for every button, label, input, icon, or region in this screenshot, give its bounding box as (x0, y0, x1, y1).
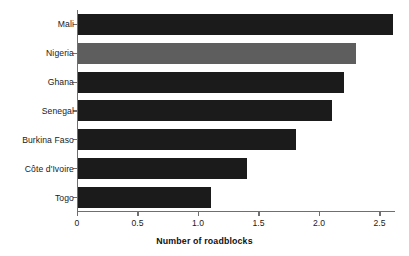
bar-chart: MaliNigeriaGhanaSenegalBurkina FasoCôte … (0, 0, 409, 256)
bar-row: Senegal (0, 97, 409, 126)
x-axis-tick (379, 212, 380, 216)
bar (78, 100, 332, 121)
bar (78, 129, 296, 150)
bar (78, 187, 211, 208)
x-axis-tick-label: 2.5 (359, 218, 399, 228)
bar-row: Burkina Faso (0, 125, 409, 154)
x-axis-tick-label: 1.0 (178, 218, 218, 228)
category-label: Ghana (0, 77, 74, 87)
bar-row: Ghana (0, 68, 409, 97)
bar-rows-container: MaliNigeriaGhanaSenegalBurkina FasoCôte … (0, 10, 409, 212)
x-axis-title: Number of roadblocks (0, 236, 409, 246)
x-axis-tick (137, 212, 138, 216)
x-axis-tick-label: 0 (57, 218, 97, 228)
x-axis-tick (319, 212, 320, 216)
x-axis-tick (198, 212, 199, 216)
x-axis-tick (258, 212, 259, 216)
category-label: Burkina Faso (0, 135, 74, 145)
x-axis-tick-label: 0.5 (117, 218, 157, 228)
bar-row: Togo (0, 183, 409, 212)
bar-row: Nigeria (0, 39, 409, 68)
category-label: Nigeria (0, 48, 74, 58)
bar (78, 14, 393, 35)
category-label: Togo (0, 193, 74, 203)
bar (78, 43, 356, 64)
bar (78, 72, 344, 93)
bar (78, 158, 247, 179)
x-axis-tick-label: 2.0 (299, 218, 339, 228)
category-label: Côte d'Ivoire (0, 164, 74, 174)
bar-row: Côte d'Ivoire (0, 154, 409, 183)
category-label: Mali (0, 19, 74, 29)
x-axis-tick (77, 212, 78, 216)
bar-row: Mali (0, 10, 409, 39)
category-label: Senegal (0, 106, 74, 116)
x-axis-tick-label: 1.5 (238, 218, 278, 228)
